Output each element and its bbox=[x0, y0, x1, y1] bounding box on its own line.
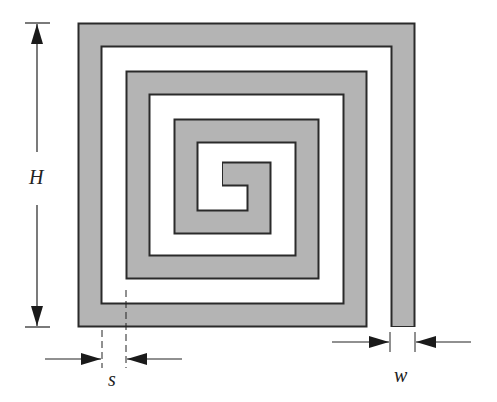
width-label: w bbox=[394, 364, 407, 387]
height-label: H bbox=[29, 166, 43, 189]
spacing-dimension bbox=[45, 290, 182, 368]
spiral-inductor-diagram: H s w bbox=[0, 0, 497, 402]
spacing-label: s bbox=[108, 368, 116, 391]
width-dimension bbox=[332, 332, 471, 352]
spiral-svg bbox=[0, 0, 497, 402]
spiral-track bbox=[90, 35, 403, 327]
